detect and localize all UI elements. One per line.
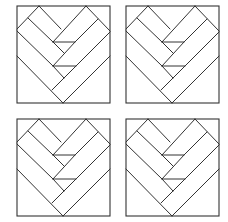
quilt-tile-top-left: [17, 6, 110, 103]
quilt-tile-bottom-right: [126, 119, 219, 216]
quilt-tile-top-right: [126, 6, 219, 103]
chevron-heart-pattern: [17, 119, 110, 216]
chevron-heart-pattern: [126, 119, 219, 216]
chevron-heart-pattern: [17, 6, 110, 103]
chevron-heart-pattern: [126, 6, 219, 103]
quilt-tile-bottom-left: [17, 119, 110, 216]
